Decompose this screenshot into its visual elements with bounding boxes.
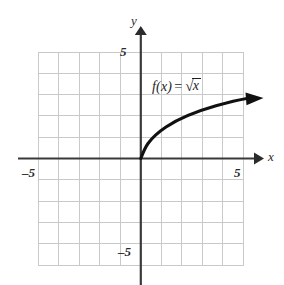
x-axis-tick-label-negative-5: –5 bbox=[22, 166, 35, 179]
y-axis-label: y bbox=[131, 14, 137, 27]
radical-expression: √x bbox=[184, 79, 201, 94]
function-argument: (x) bbox=[156, 79, 172, 94]
x-axis-tick-label-5: 5 bbox=[234, 166, 241, 179]
equals-sign: = bbox=[172, 79, 184, 94]
coordinate-plane bbox=[0, 0, 284, 285]
graph-figure: 5 –5 5 –5 y x f(x)=√x bbox=[0, 0, 284, 285]
y-axis-tick-label-5: 5 bbox=[120, 45, 127, 58]
function-equation-label: f(x)=√x bbox=[152, 79, 201, 94]
x-axis-label: x bbox=[268, 150, 274, 163]
y-axis-tick-label-negative-5: –5 bbox=[118, 245, 131, 258]
radicand: x bbox=[192, 78, 201, 93]
